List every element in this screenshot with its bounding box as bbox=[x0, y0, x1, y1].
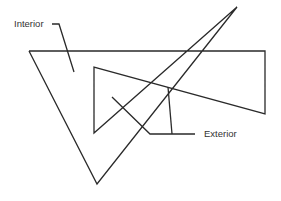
interior-label: Interior bbox=[14, 19, 44, 29]
polygon-diagram bbox=[0, 0, 281, 201]
exterior-leader-line-b bbox=[168, 87, 172, 134]
interior-leader-line bbox=[52, 24, 74, 72]
exterior-leader-line-a bbox=[112, 97, 195, 134]
exterior-label: Exterior bbox=[204, 129, 237, 139]
self-intersecting-polygon bbox=[29, 7, 265, 184]
